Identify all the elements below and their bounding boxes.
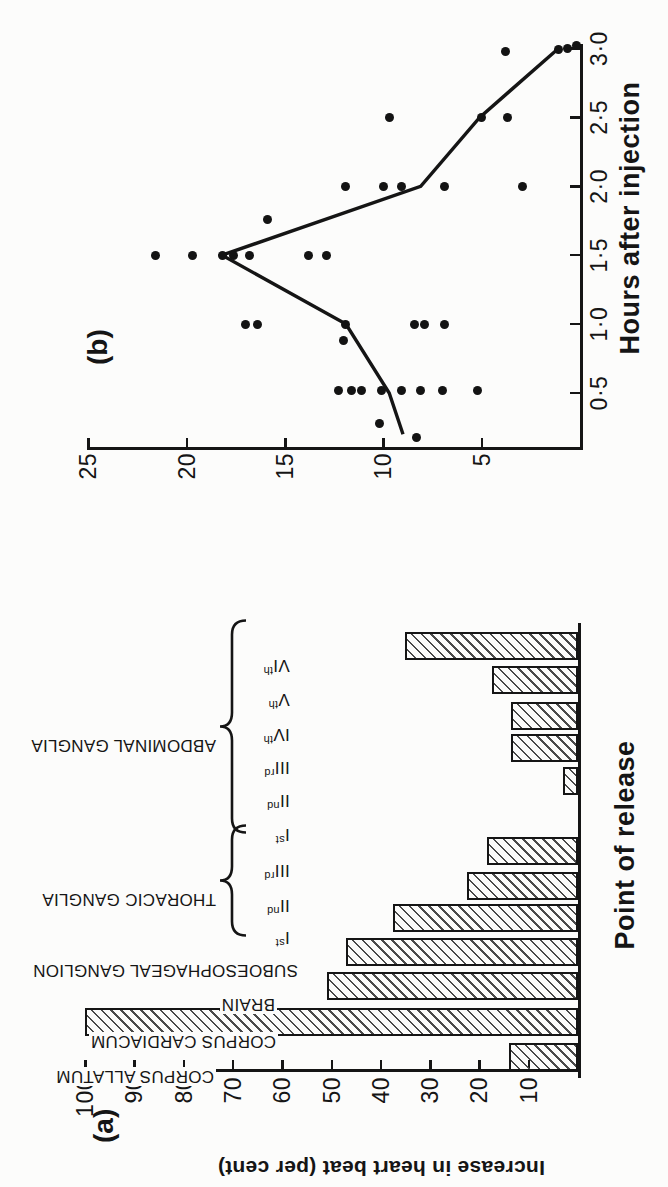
chart-b-mean-line [68, 0, 648, 480]
scatter-point [245, 251, 254, 260]
scatter-point [397, 386, 406, 395]
scatter-point [572, 41, 581, 50]
scatter-point [188, 251, 197, 260]
scatter-point [438, 386, 447, 395]
scatter-point [416, 386, 425, 395]
scatter-point [304, 251, 313, 260]
scatter-point [412, 433, 421, 442]
scatter-point [410, 320, 419, 329]
scatter-point [263, 215, 272, 224]
scatter-point [503, 113, 512, 122]
mean-line-path [222, 49, 558, 435]
scatter-point [377, 386, 386, 395]
scatter-point [253, 320, 262, 329]
scatter-point [440, 320, 449, 329]
scatter-point [375, 419, 384, 428]
chart-b-scatter: (b) Hours after injection 5101520250·51·… [68, 0, 648, 480]
scatter-point [379, 182, 388, 191]
scatter-point [473, 386, 482, 395]
scatter-point [151, 251, 160, 260]
scatter-point [322, 251, 331, 260]
group-brace [220, 826, 246, 936]
scanned-figure-page: (b) Hours after injection 5101520250·51·… [0, 0, 668, 1187]
group-label: THORACIC GANGLIA [40, 890, 218, 909]
chart-a-rotated-region: (a) Increase in heart beat (per cent) Po… [40, 600, 655, 1187]
scatter-point [563, 44, 572, 53]
chart-a-bar-chart: (a) Increase in heart beat (per cent) Po… [40, 600, 655, 1187]
scatter-point [440, 182, 449, 191]
scatter-point [420, 320, 429, 329]
scatter-point [334, 386, 343, 395]
scatter-point [477, 113, 486, 122]
chart-b-rotated-region: (b) Hours after injection 5101520250·51·… [68, 0, 648, 480]
group-brace [220, 621, 246, 833]
scatter-point [385, 113, 394, 122]
scatter-point [501, 47, 510, 56]
group-label: ABDOMINAL GANGLIA [29, 736, 218, 755]
scatter-point [229, 251, 238, 260]
scatter-point [218, 251, 227, 260]
scatter-point [241, 320, 250, 329]
scatter-point [357, 386, 366, 395]
scatter-point [397, 182, 406, 191]
